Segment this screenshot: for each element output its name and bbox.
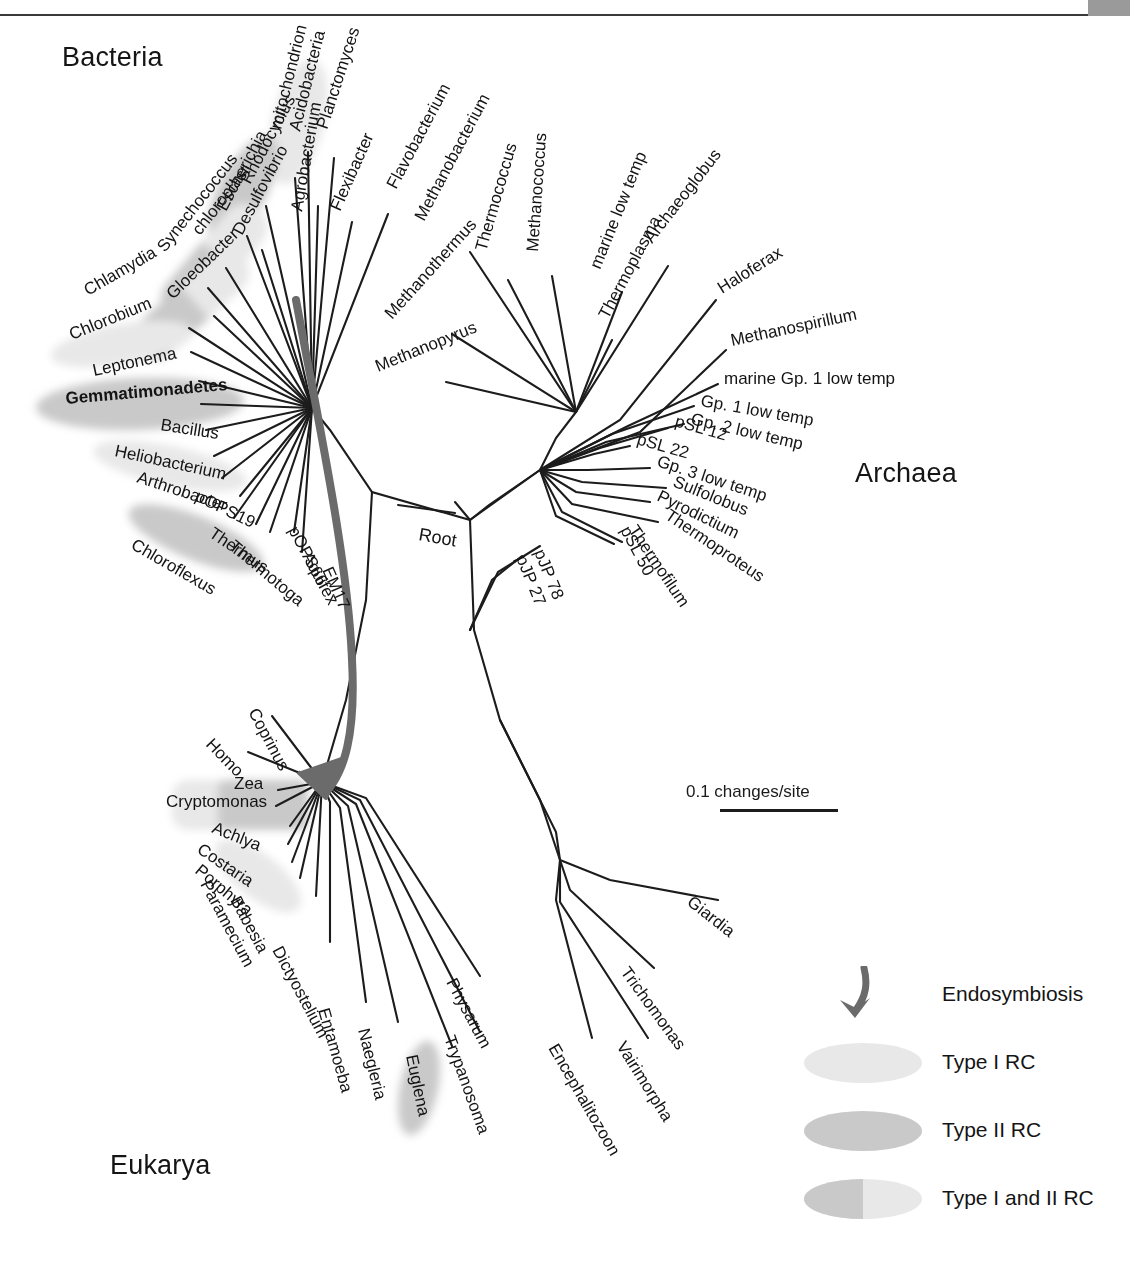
taxon-label-vairimorpha: Vairimorpha bbox=[613, 1038, 677, 1125]
ellipse-medium-icon bbox=[804, 1111, 922, 1151]
taxon-label-marine-gp-1-low-temp: marine Gp. 1 low temp bbox=[724, 369, 895, 388]
tree-branches bbox=[189, 152, 726, 1046]
taxon-label-trypanosoma: Trypanosoma bbox=[440, 1033, 493, 1137]
figure-canvas: AcidobacteriamitochondrionRhodocyclusEsc… bbox=[0, 0, 1130, 1283]
scale-bar: 0.1 changes/site bbox=[686, 782, 838, 812]
ellipse-split-icon bbox=[804, 1179, 922, 1219]
domain-label-archaea: Archaea bbox=[855, 458, 957, 489]
taxon-labels: AcidobacteriamitochondrionRhodocyclusEsc… bbox=[65, 23, 895, 1159]
taxon-label-zea: Zea bbox=[234, 774, 264, 793]
taxon-label-methanopyrus: Methanopyrus bbox=[372, 318, 479, 376]
legend-swatch-type-2-rc bbox=[800, 1100, 928, 1160]
ellipse-light-icon bbox=[804, 1043, 922, 1083]
legend-item-endosymbiosis: Endosymbiosis bbox=[800, 960, 1130, 1028]
root-label: Root bbox=[417, 524, 458, 550]
endosymbiosis-arrow-icon bbox=[830, 966, 890, 1024]
taxon-label-haloferax: Haloferax bbox=[714, 242, 786, 297]
legend-label-type-1-and-2-rc: Type I and II RC bbox=[928, 1186, 1094, 1210]
taxon-label-naegleria: Naegleria bbox=[354, 1026, 390, 1102]
legend-label-type-2-rc: Type II RC bbox=[928, 1118, 1041, 1142]
legend-item-type-2-rc: Type II RC bbox=[800, 1096, 1130, 1164]
legend-swatch-endosymbiosis bbox=[800, 964, 928, 1024]
legend-label-type-1-rc: Type I RC bbox=[928, 1050, 1035, 1074]
legend-item-type-1-and-2-rc: Type I and II RC bbox=[800, 1164, 1130, 1232]
scale-bar-label: 0.1 changes/site bbox=[686, 782, 838, 802]
taxon-label-methanococcus: Methanococcus bbox=[523, 132, 550, 252]
taxon-label-entamoeba: Entamoeba bbox=[314, 1006, 356, 1095]
taxon-label-cryptomonas: Cryptomonas bbox=[166, 792, 267, 811]
taxon-label-methanospirillum: Methanospirillum bbox=[729, 305, 859, 350]
taxon-label-thermococcus: Thermococcus bbox=[472, 141, 521, 253]
legend-item-type-1-rc: Type I RC bbox=[800, 1028, 1130, 1096]
domain-label-eukarya: Eukarya bbox=[110, 1150, 210, 1181]
taxon-label-archaeoglobus: Archaeoglobus bbox=[640, 145, 725, 246]
taxon-label-methanothermus: Methanothermus bbox=[381, 215, 480, 323]
taxon-label-flexibacter: Flexibacter bbox=[326, 130, 377, 214]
taxon-label-chlamydia: Chlamydia bbox=[81, 243, 161, 300]
taxon-label-coprinus: Coprinus bbox=[244, 705, 293, 774]
legend: Endosymbiosis Type I RC Type II RC Type … bbox=[800, 960, 1130, 1232]
legend-swatch-type-1-and-2-rc bbox=[800, 1168, 928, 1228]
scale-bar-line bbox=[720, 809, 838, 812]
legend-swatch-type-1-rc bbox=[800, 1032, 928, 1092]
domain-label-bacteria: Bacteria bbox=[62, 42, 163, 73]
taxon-label-encephalitozoon: Encephalitozoon bbox=[545, 1041, 624, 1159]
legend-label-endosymbiosis: Endosymbiosis bbox=[928, 982, 1083, 1006]
